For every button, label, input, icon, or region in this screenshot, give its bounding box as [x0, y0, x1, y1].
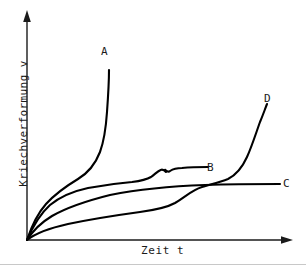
creep-curve-diagram: A B C D Zeit t Kriechverformung v: [0, 0, 306, 266]
creep-curve-d: [27, 104, 267, 240]
y-axis-label: Kriechverformung v: [18, 54, 29, 194]
creep-curve-c: [27, 184, 280, 240]
y-axis-arrowhead: [23, 10, 31, 22]
curve-label-a: A: [101, 46, 108, 57]
curve-label-c: C: [283, 178, 290, 189]
creep-curve-a: [27, 70, 109, 240]
x-axis-label: Zeit t: [141, 245, 184, 256]
creep-curve-b: [27, 167, 208, 240]
x-axis-arrowhead: [281, 236, 293, 244]
curve-label-b: B: [207, 162, 214, 173]
plot-area: [0, 0, 306, 266]
curve-label-d: D: [264, 93, 271, 104]
